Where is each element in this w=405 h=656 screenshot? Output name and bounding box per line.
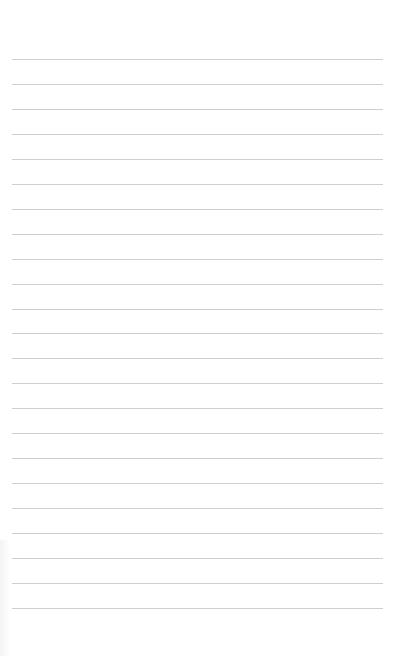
ruled-line (12, 408, 383, 409)
ruled-line (12, 284, 383, 285)
ruled-line (12, 558, 383, 559)
ruled-line (12, 533, 383, 534)
ruled-line (12, 84, 383, 85)
ruled-line (12, 209, 383, 210)
ruled-line (12, 383, 383, 384)
ruled-line (12, 259, 383, 260)
ruled-line (12, 483, 383, 484)
ruled-line (12, 358, 383, 359)
ruled-line (12, 109, 383, 110)
ruled-line (12, 433, 383, 434)
ruled-line (12, 184, 383, 185)
ruled-line (12, 309, 383, 310)
ruled-line (12, 59, 383, 60)
ruled-line (12, 583, 383, 584)
ruled-line (12, 508, 383, 509)
ruled-line (12, 458, 383, 459)
ruled-line (12, 234, 383, 235)
ruled-line (12, 134, 383, 135)
page-edge-shadow (0, 540, 10, 656)
ruled-line (12, 333, 383, 334)
lined-page (0, 0, 405, 656)
ruled-line (12, 159, 383, 160)
ruled-line (12, 608, 383, 609)
